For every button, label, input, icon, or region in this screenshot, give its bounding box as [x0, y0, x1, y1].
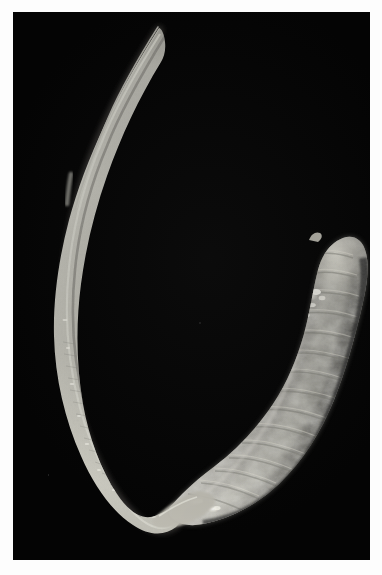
specimen-photograph-page — [0, 0, 382, 575]
specimen-illustration — [13, 12, 370, 560]
photo-plate-background — [13, 12, 370, 560]
proboscis-basal-thickening — [67, 174, 71, 204]
terminal-papilla — [309, 232, 322, 242]
photo-mount-border — [0, 0, 382, 575]
